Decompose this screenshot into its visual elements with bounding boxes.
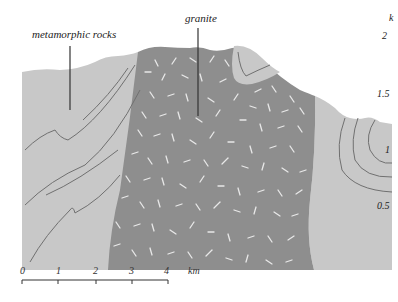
scale-tick-3: 3 (129, 265, 134, 276)
granite-body (108, 47, 315, 270)
scale-tick-0: 0 (20, 265, 25, 276)
metamorphic-rock-right (309, 96, 392, 270)
k-tick-1.5: 1.5 (377, 88, 390, 99)
k-axis-title: k (389, 12, 393, 23)
k-tick-2: 2 (382, 30, 387, 41)
scale-bar (22, 280, 168, 284)
k-tick-1: 1 (385, 144, 390, 155)
scale-tick-2: 2 (93, 265, 98, 276)
scale-unit: km (188, 265, 200, 276)
scale-tick-4: 4 (164, 265, 169, 276)
metamorphic-rocks-label: metamorphic rocks (32, 28, 116, 40)
granite-label: granite (185, 12, 217, 24)
k-tick-0.5: 0.5 (377, 200, 390, 211)
scale-tick-1: 1 (56, 265, 61, 276)
cross-section-diagram: metamorphic rocks granite k 2 1.5 1 0.5 … (0, 0, 398, 302)
